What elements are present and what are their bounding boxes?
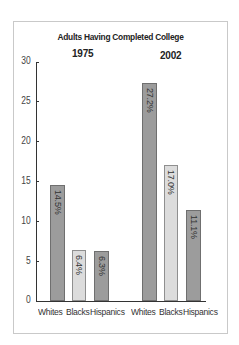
group-label-2002: 2002 [160,50,181,61]
y-tick [36,62,39,63]
y-tick [36,181,39,182]
group-label-1975: 1975 [72,48,93,59]
bar-value-label: 11.1% [189,215,199,239]
y-tick [36,301,39,302]
y-tick [36,221,39,222]
bar-2002-whites: 27.2% [142,83,157,301]
y-tick-label: 5 [15,255,30,266]
y-tick [36,261,39,262]
x-label-2002-blacks: Blacks [159,306,183,317]
y-tick-label: 25 [15,95,30,106]
x-label-1975-blacks: Blacks [66,306,90,317]
bar-value-label: 14.5% [53,190,63,215]
x-label-2002-hispanics: Hispanics [183,306,218,317]
bar-value-label: 17.0% [166,170,176,195]
bar-value-label: 6.3% [97,256,107,276]
y-axis [36,62,37,302]
bar-2002-hispanics: 11.1% [186,210,201,301]
y-tick [36,101,39,102]
bar-2002-blacks: 17.0% [164,165,178,301]
y-tick-label: 0 [15,294,30,305]
y-tick [36,141,39,142]
x-label-2002-whites: Whites [131,306,156,317]
bar-1975-whites: 14.5% [50,185,65,301]
chart-title: Adults Having Completed College [26,31,215,42]
bar-1975-hispanics: 6.3% [94,251,109,301]
bar-value-label: 6.4% [74,255,84,275]
x-label-1975-whites: Whites [38,306,63,317]
y-tick-label: 20 [15,135,30,146]
x-label-1975-hispanics: Hispanics [90,306,125,317]
x-axis [36,301,206,302]
bar-value-label: 27.2% [145,88,155,113]
bar-1975-blacks: 6.4% [72,250,86,301]
y-tick-label: 30 [15,55,30,66]
y-tick-label: 10 [15,215,30,226]
y-tick-label: 15 [15,175,30,186]
